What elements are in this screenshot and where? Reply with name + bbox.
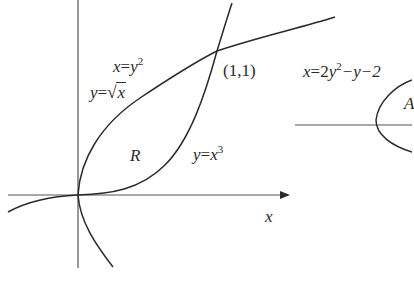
parabola-label-lhs: x <box>113 57 121 76</box>
cubic-label-eq: = <box>201 145 211 164</box>
right-curve-label: x=2y2−y−2 <box>303 63 381 80</box>
parabola-label-base: y <box>130 57 138 76</box>
cubic-label-lhs: y <box>193 145 201 164</box>
parabola-curve <box>78 17 335 267</box>
parabola-label: x=y2 <box>113 58 143 75</box>
right-curve-label-rest: −y−2 <box>342 62 381 81</box>
right-curve-label-lhs: x <box>303 62 311 81</box>
cubic-curve <box>8 3 232 212</box>
sqrt-label: y=√x <box>90 84 126 101</box>
x-axis-label: x <box>265 208 273 225</box>
parabola-label-eq: = <box>121 57 131 76</box>
cubic-label: y=x3 <box>193 146 223 163</box>
sqrt-label-eq: = <box>98 83 108 102</box>
sqrt-label-lhs: y <box>90 83 98 102</box>
region-r-label: R <box>130 147 140 164</box>
sqrt-radicand: x <box>116 82 126 102</box>
cubic-label-base: x <box>210 145 218 164</box>
region-a-label: A <box>404 95 414 112</box>
parabola-label-exp: 2 <box>138 55 144 67</box>
right-curve-label-eq: =2 <box>311 62 329 81</box>
intersection-point-label: (1,1) <box>223 62 256 79</box>
cubic-label-exp: 3 <box>218 143 224 155</box>
right-parabola-curve <box>376 80 412 152</box>
